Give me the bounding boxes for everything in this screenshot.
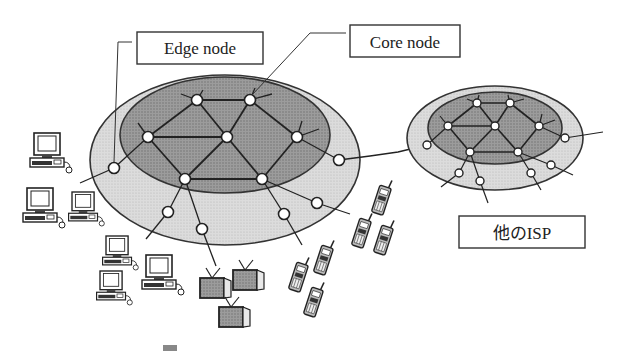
mobile-phone-icon — [351, 210, 374, 248]
tv-icon — [200, 268, 231, 298]
edge-node — [312, 198, 323, 209]
edge-node — [197, 224, 208, 235]
edge-node-label: Edge node — [164, 39, 236, 58]
core-node-label: Core node — [370, 33, 440, 52]
computer-icon — [30, 133, 72, 173]
mobile-phone-icon — [313, 237, 336, 275]
core-node — [180, 174, 191, 185]
edge-node — [163, 207, 174, 218]
computer-icon — [103, 236, 139, 270]
edge-node — [334, 155, 345, 166]
computer-icon — [23, 188, 65, 228]
mobile-phone-icon — [373, 217, 396, 255]
mobile-phone-icon — [371, 177, 394, 215]
isp-network-diagram: Edge node Core node 他のISP — [0, 0, 625, 351]
computer-icon — [69, 192, 105, 226]
televisions — [200, 260, 264, 327]
computer-icon — [142, 255, 184, 295]
other-isp-label: 他のISP — [493, 224, 552, 243]
tv-icon — [219, 297, 250, 327]
core-node — [245, 95, 256, 106]
caption-fragment — [163, 345, 177, 351]
edge-node — [109, 163, 120, 174]
core-node — [257, 174, 268, 185]
edge-node — [279, 209, 290, 220]
other-isp-network — [407, 86, 603, 203]
core-node — [192, 95, 203, 106]
tv-icon — [233, 260, 264, 290]
main-isp-network — [80, 75, 427, 266]
other-isp-callout: 他のISP — [459, 216, 585, 248]
computer-icon — [97, 271, 133, 305]
core-node — [292, 132, 303, 143]
core-node — [143, 132, 154, 143]
mobile-phone-icon — [303, 279, 326, 317]
core-node — [222, 132, 233, 143]
mobile-phone-icon — [288, 254, 311, 292]
